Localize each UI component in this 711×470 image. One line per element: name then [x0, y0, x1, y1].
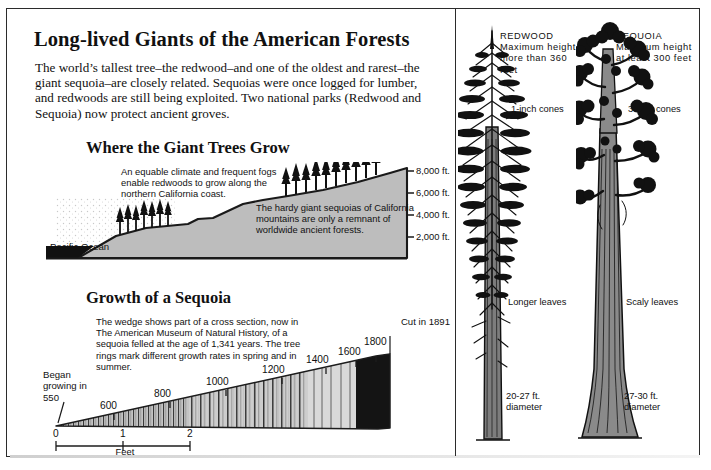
- pacific-ocean-label: Pacific Ocean: [50, 241, 109, 252]
- year-mark-1000: 1000: [206, 376, 229, 387]
- section-title-growth: Growth of a Sequoia: [86, 288, 231, 308]
- redwood-illustration: [458, 9, 578, 456]
- section-title-where: Where the Giant Trees Grow: [86, 138, 290, 158]
- year-mark-1800: 1800: [364, 336, 387, 347]
- redwood-leaf-label: Longer leaves: [508, 297, 568, 308]
- infographic-page: Long-lived Giants of the American Forest…: [0, 0, 711, 470]
- ruler-tick-2: 2: [187, 428, 193, 439]
- ruler-unit-label: Feet: [95, 446, 155, 457]
- elev-tick-2000: 2,000 ft.: [416, 231, 450, 242]
- ruler-tick-1: 1: [120, 428, 126, 439]
- redwood-name: REDWOOD Maximum height more than 360 fee…: [500, 31, 578, 76]
- began-growing-label: Began growing in 550: [43, 369, 103, 403]
- sequoia-name: SEQUOIA Maximum height at least 300 feet: [616, 31, 696, 65]
- redwood-cone-label: 1-inch cones: [511, 104, 571, 115]
- growth-wedge-diagram: The wedge shows part of a cross section,…: [38, 310, 448, 460]
- sequoia-illustration: [576, 9, 696, 456]
- redwood-diameter-label: 20-27 ft. diameter: [506, 391, 576, 413]
- sequoia-leaf-label: Scaly leaves: [626, 297, 686, 308]
- page-title: Long-lived Giants of the American Forest…: [34, 28, 444, 51]
- sequoia-plate: SEQUOIA Maximum height at least 300 feet…: [576, 9, 696, 456]
- redwood-height-text: Maximum height more than 360 feet: [500, 42, 576, 74]
- coast-note: An equable climate and frequent fogs ena…: [121, 166, 281, 199]
- elevation-diagram: An equable climate and frequent fogs ena…: [38, 162, 438, 272]
- intro-paragraph: The world’s tallest tree–the redwood–and…: [35, 60, 430, 121]
- year-mark-1600: 1600: [338, 346, 361, 357]
- left-column: Long-lived Giants of the American Forest…: [8, 10, 452, 455]
- mountain-note: The hardy giant sequoias of California m…: [256, 202, 416, 235]
- elev-tick-8000: 8,000 ft.: [416, 165, 450, 176]
- sequoia-name-text: SEQUOIA: [616, 31, 662, 41]
- year-mark-1400: 1400: [306, 354, 329, 365]
- tree-plates: REDWOOD Maximum height more than 360 fee…: [456, 9, 699, 456]
- sequoia-diameter-label: 27-30 ft. diameter: [624, 391, 694, 413]
- redwood-name-text: REDWOOD: [500, 31, 553, 41]
- ruler-tick-0: 0: [53, 428, 59, 439]
- cut-year-label: Cut in 1891: [390, 316, 450, 327]
- sequoia-cone-label: 3-inch cones: [628, 104, 688, 115]
- sequoia-height-text: Maximum height at least 300 feet: [616, 42, 692, 63]
- redwood-plate: REDWOOD Maximum height more than 360 fee…: [458, 9, 578, 456]
- elev-tick-4000: 4,000 ft.: [416, 209, 450, 220]
- year-mark-1200: 1200: [262, 364, 285, 375]
- year-mark-600: 600: [100, 400, 117, 411]
- elev-tick-6000: 6,000 ft.: [416, 187, 450, 198]
- year-mark-800: 800: [154, 388, 171, 399]
